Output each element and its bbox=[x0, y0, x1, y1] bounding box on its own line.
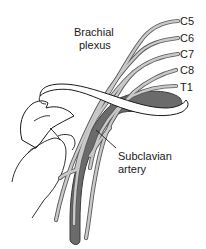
brachial-plexus-nerves bbox=[56, 21, 178, 238]
nerve-root-label-c5: C5 bbox=[180, 15, 194, 27]
subclavian-artery-label-line1: Subclavian bbox=[118, 150, 172, 162]
scapula bbox=[12, 101, 75, 218]
nerve-root-label-c6: C6 bbox=[180, 32, 194, 44]
nerve-root-label-t1: T1 bbox=[180, 81, 193, 93]
nerve-root-label-c8: C8 bbox=[180, 64, 194, 76]
nerve-root-label-c7: C7 bbox=[180, 48, 194, 60]
brachial-plexus-label-line1: Brachial bbox=[74, 26, 114, 38]
brachial-plexus-label-line2: plexus bbox=[79, 39, 111, 51]
subclavian-artery-label-line2: artery bbox=[118, 163, 147, 175]
brachial-plexus-diagram: Brachial plexus C5 C6 C7 C8 T1 Subclavia… bbox=[0, 0, 206, 249]
